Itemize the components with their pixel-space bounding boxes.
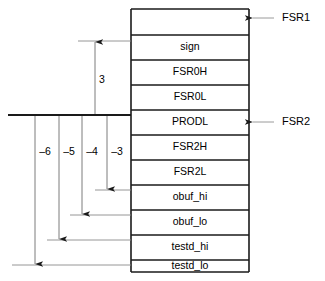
stack-cell-fsr0l: FSR0L: [174, 90, 207, 102]
stack-diagram-canvas: sign FSR0H FSR0L PRODL FSR2H FSR2L obuf_…: [0, 0, 325, 281]
stack-cell-testd-hi: testd_hi: [172, 240, 209, 252]
stack-cell-labels: sign FSR0H FSR0L PRODL FSR2H FSR2L obuf_…: [172, 40, 209, 271]
stack-cell-obuf-lo: obuf_lo: [173, 215, 208, 227]
offset-measure-3: 3: [95, 42, 105, 114]
offset-measure-minus4: –4: [82, 116, 98, 214]
stack-cell-fsr2h: FSR2H: [173, 140, 207, 152]
stack-cell-fsr2l: FSR2L: [174, 165, 207, 177]
stack-cell-obuf-hi: obuf_hi: [173, 190, 207, 202]
offset-measure-minus3: –3: [107, 116, 123, 189]
offset-minus6-label: –6: [39, 145, 51, 157]
pointer-fsr2: FSR2: [253, 115, 310, 127]
stack-frame-diagram: sign FSR0H FSR0L PRODL FSR2H FSR2L obuf_…: [0, 0, 325, 281]
stack-cell-testd-lo: testd_lo: [172, 259, 209, 271]
offset-measure-minus5: –5: [59, 116, 75, 239]
offset-minus5-label: –5: [63, 145, 75, 157]
offset-minus4-label: –4: [86, 145, 98, 157]
fsr2-label: FSR2: [282, 115, 310, 127]
stack-cell-fsr0h: FSR0H: [173, 65, 207, 77]
fsr1-label: FSR1: [282, 11, 310, 23]
stack-cell-prodl: PRODL: [172, 115, 208, 127]
offset-measure-minus6: –6: [35, 116, 51, 264]
offset-minus3-label: –3: [111, 145, 123, 157]
pointer-fsr1: FSR1: [253, 11, 310, 23]
stack-cell-sign: sign: [180, 40, 199, 52]
offset-3-label: 3: [99, 73, 105, 85]
